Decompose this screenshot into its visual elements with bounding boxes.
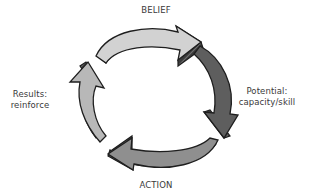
belief-cycle-diagram: BELIEF Potential: capacity/skill ACTION … [0, 0, 311, 196]
belief-label: BELIEF [126, 5, 186, 16]
potential-label-line-1: Potential: [232, 86, 302, 97]
action-label: ACTION [126, 180, 186, 191]
results-arrow-icon [70, 62, 106, 142]
potential-label: Potential: capacity/skill [232, 86, 302, 108]
action-arrow-icon [108, 136, 218, 170]
potential-label-line-2: capacity/skill [232, 97, 302, 108]
results-label-line-1: Results: [4, 89, 56, 100]
belief-arrow-icon [96, 26, 203, 66]
results-label-line-2: reinforce [4, 100, 56, 111]
results-label: Results: reinforce [4, 89, 56, 111]
